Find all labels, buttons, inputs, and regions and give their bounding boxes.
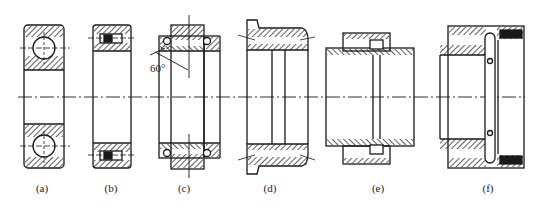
bearing-types-diagram (0, 0, 540, 209)
label-c: (c) (178, 182, 190, 194)
bearing-e (326, 33, 414, 164)
bearing-a (20, 25, 70, 168)
label-d: (d) (264, 182, 277, 194)
label-b: (b) (105, 182, 118, 194)
label-f: (f) (483, 182, 494, 194)
bearing-c (150, 15, 220, 178)
label-e: (e) (372, 182, 384, 194)
bearing-b (88, 25, 136, 168)
angle-annotation: 60° (150, 62, 165, 74)
label-a: (a) (36, 182, 48, 194)
